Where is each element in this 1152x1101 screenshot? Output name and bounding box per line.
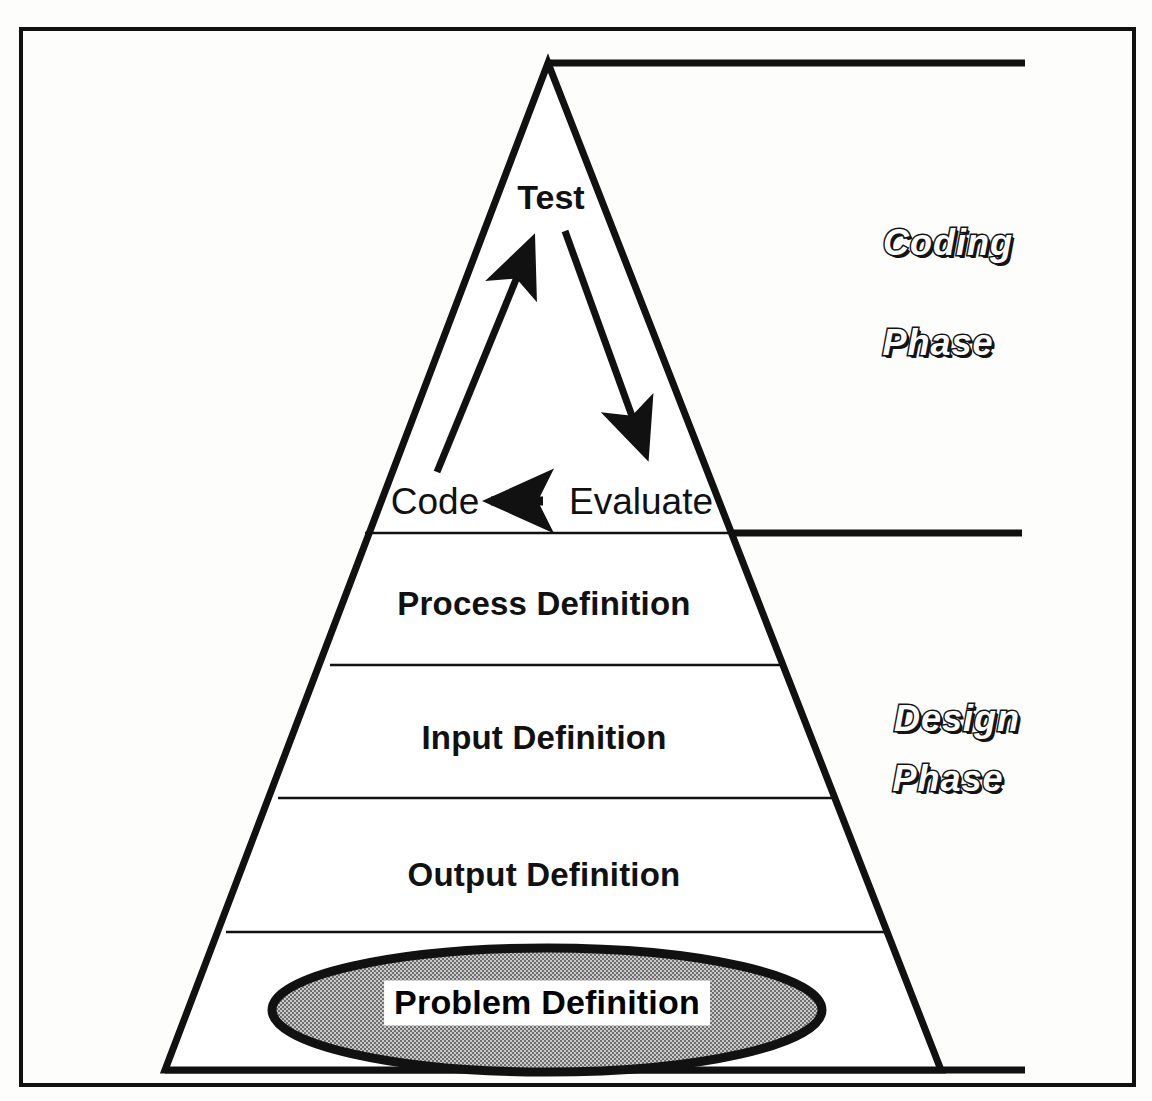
- phase-label-design-line2: Phase: [892, 761, 1003, 797]
- phase-label-coding-line2: Phase: [882, 325, 993, 361]
- tier-label-input-definition: Input Definition: [421, 721, 666, 754]
- flow-label-test: Test: [517, 180, 584, 214]
- tier-label-process-definition: Process Definition: [397, 587, 690, 620]
- flow-label-code: Code: [391, 483, 479, 520]
- pyramid-diagram-svg: [0, 0, 1152, 1101]
- phase-label-coding-line1: Coding: [883, 225, 1013, 261]
- tier-label-problem-definition: Problem Definition: [394, 983, 700, 1022]
- diagram-canvas: Test Code Evaluate Process Definition In…: [0, 0, 1152, 1101]
- problem-definition-plate: Problem Definition: [384, 981, 710, 1026]
- phase-label-design-line1: Design: [894, 701, 1020, 737]
- tier-label-output-definition: Output Definition: [408, 858, 681, 891]
- flow-label-evaluate: Evaluate: [569, 483, 713, 520]
